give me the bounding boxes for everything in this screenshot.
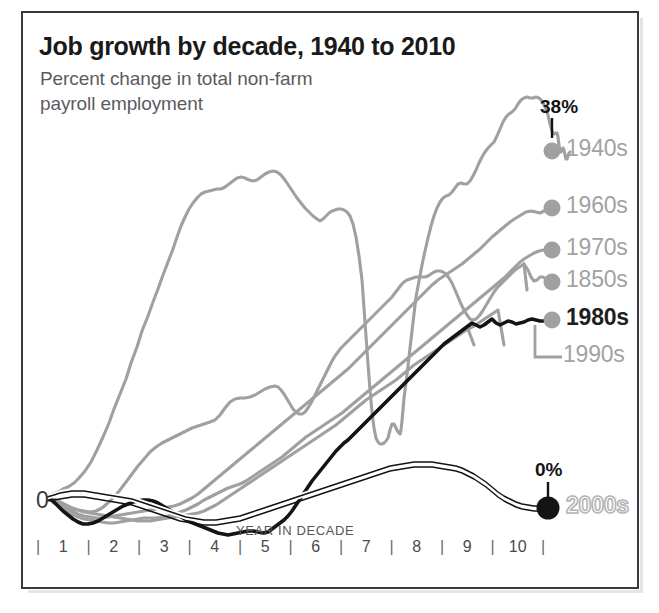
endpoint-dot-2000s [537, 497, 560, 520]
x-axis-tick-label-3: 3 [151, 538, 177, 556]
series-line-1980s [47, 319, 552, 535]
series-label-1940s[interactable]: 1940s [566, 135, 628, 162]
x-axis-tick-label-2: 2 [101, 538, 127, 556]
x-axis-tick-mark: | [84, 538, 94, 556]
x-axis-title: YEAR IN DECADE [236, 523, 354, 538]
x-axis-tick-label-5: 5 [252, 538, 278, 556]
x-axis-tick-mark: | [437, 538, 447, 556]
x-axis-tick-mark: | [185, 538, 195, 556]
endpoint-dot-1960s [544, 200, 561, 217]
series-label-1990s[interactable]: 1990s [563, 341, 625, 368]
x-axis-tick-mark: | [538, 538, 548, 556]
x-axis-tick-mark: | [336, 538, 346, 556]
endpoint-dot-1850s [544, 274, 561, 291]
series-line-1960s [47, 208, 552, 518]
figure-root: Job growth by decade, 1940 to 2010 Perce… [0, 0, 659, 613]
x-axis-tick-mark: | [488, 538, 498, 556]
x-axis-tick-mark: | [387, 538, 397, 556]
series-label-1970s[interactable]: 1970s [566, 234, 628, 261]
y-axis-zero-label: 0 [36, 487, 49, 514]
endpoint-dot-1980s [544, 312, 561, 329]
series-label-2000s[interactable]: 2000s [566, 492, 629, 519]
endpoint-dot-1970s [544, 242, 561, 259]
x-axis-tick-label-9: 9 [454, 538, 480, 556]
leader-line-1990s [535, 325, 562, 357]
x-axis-tick-mark: | [33, 538, 43, 556]
value-label-0pct: 0% [535, 459, 562, 481]
series-line-2000s [47, 462, 546, 520]
series-label-1980s[interactable]: 1980s [566, 304, 629, 331]
series-label-1850s[interactable]: 1850s [566, 266, 628, 293]
series-line-1850s [47, 264, 527, 512]
x-axis-tick-mark: | [286, 538, 296, 556]
x-axis-tick-mark: | [134, 538, 144, 556]
line-chart-plot [0, 0, 659, 613]
x-axis-tick-label-6: 6 [303, 538, 329, 556]
value-label-38pct: 38% [540, 96, 578, 118]
x-axis-tick-label-1: 1 [50, 538, 76, 556]
series-label-1960s[interactable]: 1960s [566, 192, 628, 219]
endpoint-dot-1940s [544, 143, 561, 160]
x-axis-tick-label-4: 4 [202, 538, 228, 556]
x-axis-tick-label-10: 10 [505, 538, 531, 556]
x-axis-tick-label-7: 7 [353, 538, 379, 556]
x-axis-tick-label-8: 8 [404, 538, 430, 556]
x-axis-tick-mark: | [235, 538, 245, 556]
